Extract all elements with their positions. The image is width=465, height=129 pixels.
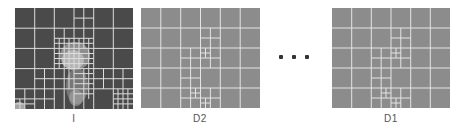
panel-image-I <box>15 8 133 109</box>
quadtree-grid-I <box>15 8 133 109</box>
ellipsis-dot <box>279 55 283 59</box>
quadtree-grid-D2 <box>141 8 260 108</box>
panel-detail-D2 <box>141 8 260 108</box>
panel-label-D2: D2 <box>180 113 220 124</box>
ellipsis-dot <box>292 55 296 59</box>
panel-label-D1: D1 <box>371 113 411 124</box>
panel-detail-D1 <box>332 8 450 108</box>
quadtree-grid-D1 <box>332 8 450 108</box>
ellipsis-dot <box>305 55 309 59</box>
panel-label-I: I <box>54 113 94 124</box>
